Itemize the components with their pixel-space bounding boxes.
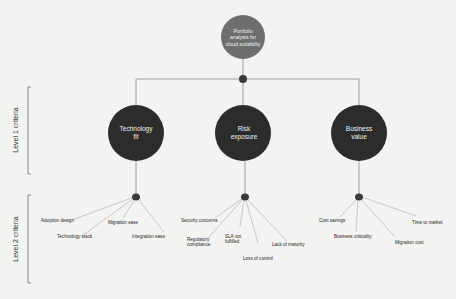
level1-label: Level 1 criteria: [12, 107, 19, 153]
criterion-loss-of-control: Loss of control: [243, 256, 273, 261]
business-value-label: Business value: [346, 125, 372, 141]
hierarchy-diagram: Level 1 criteria Level 2 criteria Portfo…: [0, 0, 456, 299]
level2-label: Level 2 criteria: [12, 216, 19, 262]
junction-dot-root: [239, 75, 247, 83]
root-node-label: Portfolio analysis for cloud suitability: [225, 28, 260, 47]
fan-lines-risk: [208, 198, 287, 243]
criterion-business-criticality: Business criticality: [334, 234, 372, 239]
fan-lines-technology: [72, 197, 164, 236]
fan-lines-business: [340, 197, 416, 237]
technology-fit-label: Technology fit: [120, 125, 153, 141]
criterion-time-to-market: Time to market: [412, 220, 442, 225]
criterion-integration-ease: Integration ease: [132, 234, 165, 239]
criterion-security-concerns: Security concerns: [181, 218, 218, 223]
risk-exposure-label: Risk exposure: [231, 125, 258, 141]
junction-dot-business: [355, 193, 363, 200]
level2-bracket: [28, 195, 31, 283]
criterion-cost-savings: Cost savings: [319, 218, 345, 223]
criterion-migration-cost: Migration cost: [395, 240, 424, 245]
level-brackets: [28, 87, 31, 283]
junction-dot-technology: [132, 193, 140, 200]
criterion-sla-not-fulfilled: SLA not fulfilled: [225, 234, 241, 245]
level1-bracket: [28, 87, 31, 174]
criterion-regulatory-compliance: Regulatory compliance: [187, 237, 210, 248]
criterion-lack-of-maturity: Lack of maturity: [272, 242, 304, 247]
criterion-adoption-design: Adoption design: [41, 218, 74, 223]
criterion-technology-stack: Technology stack: [57, 234, 92, 239]
criterion-migration-ease: Migration ease: [108, 220, 138, 225]
junction-dot-risk: [241, 193, 249, 200]
